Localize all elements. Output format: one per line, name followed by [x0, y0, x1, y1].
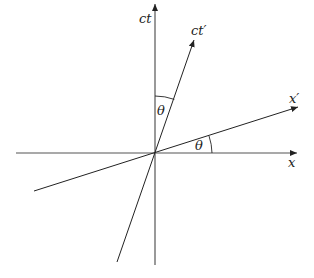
- diagram-svg: ct ct′ x′ x θ θ: [0, 0, 314, 278]
- ct-prime-axis-label: ct′: [191, 23, 207, 38]
- theta-label-x: θ: [195, 138, 203, 153]
- x-prime-axis-label: x′: [289, 91, 299, 106]
- spacetime-diagram: ct ct′ x′ x θ θ: [0, 0, 314, 278]
- angle-arc-ct: [155, 96, 174, 99]
- x-axis-label: x: [288, 155, 296, 170]
- angle-arc-x: [209, 136, 212, 153]
- ct-axis-label: ct: [139, 11, 152, 26]
- theta-label-ct: θ: [157, 103, 165, 118]
